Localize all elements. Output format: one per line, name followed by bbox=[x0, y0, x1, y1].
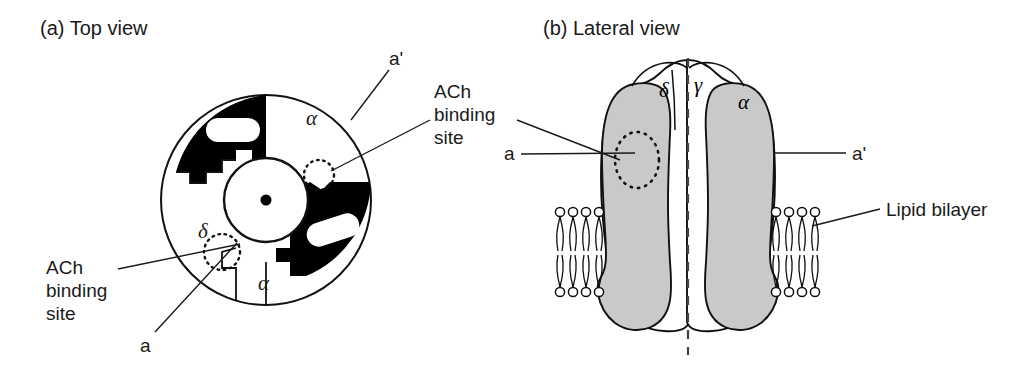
label-ach-left-line3: site bbox=[46, 303, 76, 324]
subunit-slot-upper-left bbox=[206, 118, 260, 142]
lipid-molecule bbox=[568, 255, 577, 297]
lipid-molecule bbox=[784, 207, 793, 251]
lipid-molecule bbox=[581, 207, 590, 251]
label-alpha-lateral: α bbox=[738, 90, 750, 114]
lipid-molecule bbox=[594, 207, 603, 251]
lipid-molecule bbox=[555, 207, 564, 251]
panel-b-lateral-view: (b) Lateral view δ γ α bbox=[517, 17, 988, 355]
lipid-leaflet-inner-left bbox=[555, 255, 603, 297]
leader-a-lateral-horizontal bbox=[521, 153, 635, 154]
leader-a-prime-topview bbox=[351, 70, 389, 120]
subunit-shaded-right bbox=[705, 83, 779, 330]
lipid-molecule bbox=[784, 255, 793, 297]
label-gamma-lateral: γ bbox=[694, 73, 703, 97]
lipid-leaflet-inner-right bbox=[771, 255, 819, 297]
nicotinic-receptor-diagram: (a) Top view bbox=[0, 0, 1034, 371]
lipid-leaflet-outer-left bbox=[555, 207, 603, 251]
lipid-molecule bbox=[581, 255, 590, 297]
panel-b-caption: (b) Lateral view bbox=[543, 17, 680, 39]
lipid-leaflet-outer-right bbox=[771, 207, 819, 251]
lipid-molecule bbox=[568, 207, 577, 251]
lipid-molecule bbox=[810, 207, 819, 251]
lipid-bilayer-right bbox=[771, 207, 819, 296]
label-ach-right-line3: site bbox=[434, 127, 464, 148]
lipid-molecule bbox=[797, 207, 806, 251]
lipid-molecule bbox=[797, 255, 806, 297]
label-a-topview-bottom: a bbox=[140, 335, 151, 356]
label-ach-right-line2: binding bbox=[434, 104, 495, 125]
leader-lipid-bilayer bbox=[812, 209, 880, 226]
label-a-between-panels: a bbox=[504, 143, 515, 164]
label-alpha-top: α bbox=[306, 106, 318, 130]
label-ach-right-line1: ACh bbox=[434, 81, 471, 102]
label-delta-lateral: δ bbox=[659, 78, 670, 102]
lipid-molecule bbox=[771, 207, 780, 251]
label-a-prime-topview: a' bbox=[389, 48, 403, 69]
label-lipid-bilayer: Lipid bilayer bbox=[886, 199, 988, 220]
figure-canvas: (a) Top view bbox=[0, 0, 1034, 371]
label-alpha-bottom: α bbox=[258, 271, 270, 295]
label-delta: δ bbox=[198, 219, 209, 243]
subunit-shaded-left bbox=[598, 83, 672, 330]
label-ach-left-line1: ACh bbox=[46, 257, 83, 278]
label-a-prime-lateral: a' bbox=[852, 143, 866, 164]
lipid-molecule bbox=[555, 255, 564, 297]
panel-a-top-view: (a) Top view bbox=[40, 17, 515, 356]
lipid-bilayer-left bbox=[555, 207, 603, 296]
lipid-molecule bbox=[810, 255, 819, 297]
label-ach-left-line2: binding bbox=[46, 280, 107, 301]
panel-a-caption: (a) Top view bbox=[40, 17, 148, 39]
pore-center-dot bbox=[261, 195, 272, 206]
